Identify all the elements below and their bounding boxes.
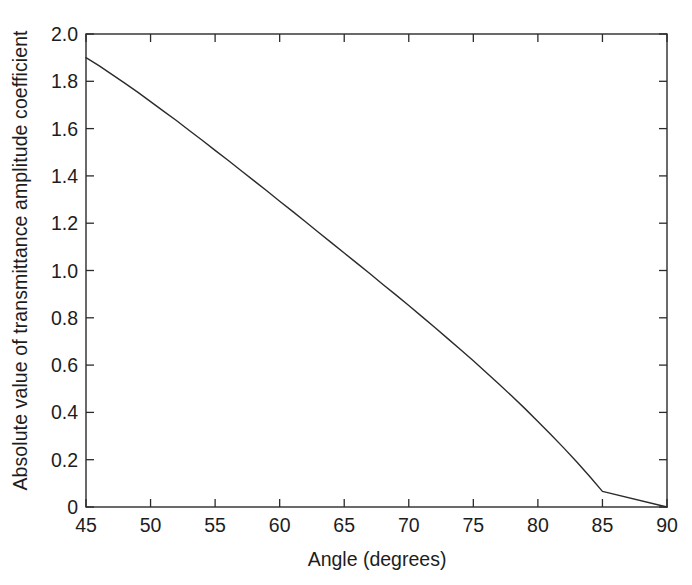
x-tick-label: 85 bbox=[592, 514, 614, 537]
y-tick-label: 0.4 bbox=[51, 401, 78, 424]
x-tick-label: 45 bbox=[75, 514, 97, 537]
y-tick-label: 2.0 bbox=[51, 23, 78, 46]
x-tick-label: 60 bbox=[269, 514, 291, 537]
y-tick-label: 0.6 bbox=[51, 354, 78, 377]
plot-canvas bbox=[0, 0, 692, 585]
x-tick-label: 90 bbox=[656, 514, 678, 537]
x-tick-label: 65 bbox=[333, 514, 355, 537]
x-tick-label: 50 bbox=[140, 514, 162, 537]
axis-ticks bbox=[86, 34, 667, 507]
data-series-group bbox=[86, 58, 667, 507]
y-tick-label: 1.4 bbox=[51, 164, 78, 187]
y-tick-label: 0.2 bbox=[51, 448, 78, 471]
x-tick-label: 55 bbox=[204, 514, 226, 537]
x-tick-label: 70 bbox=[398, 514, 420, 537]
x-tick-label: 80 bbox=[527, 514, 549, 537]
axis-frame-box bbox=[86, 34, 667, 507]
plot-frame bbox=[86, 34, 667, 507]
figure-panel: Absolute value of transmittance amplitud… bbox=[0, 0, 692, 585]
y-tick-label: 1.2 bbox=[51, 212, 78, 235]
x-tick-label: 75 bbox=[462, 514, 484, 537]
series-line-0 bbox=[86, 58, 667, 507]
y-axis-title: Absolute value of transmittance amplitud… bbox=[9, 30, 32, 490]
x-axis-title: Angle (degrees) bbox=[86, 548, 668, 571]
y-tick-label: 0.8 bbox=[51, 306, 78, 329]
y-tick-label: 1.6 bbox=[51, 117, 78, 140]
y-tick-label: 1.8 bbox=[51, 70, 78, 93]
y-axis-tick-labels: 00.20.40.60.81.01.21.41.61.82.0 bbox=[30, 0, 78, 585]
y-tick-label: 1.0 bbox=[51, 259, 78, 282]
